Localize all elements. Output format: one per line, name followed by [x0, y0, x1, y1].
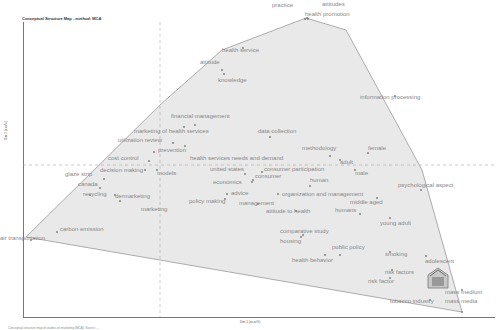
data-point [148, 160, 150, 162]
data-point [144, 169, 146, 171]
point-label: attitude [200, 59, 220, 65]
data-point [251, 181, 253, 183]
point-label: decision making [100, 167, 143, 173]
point-label: psychological aspect [398, 182, 454, 188]
data-point [153, 151, 155, 153]
point-label: management [239, 200, 274, 206]
point-label: data collection [258, 128, 296, 134]
data-point [223, 73, 225, 75]
data-point [252, 179, 254, 181]
data-point [99, 187, 101, 189]
point-label: health service [222, 47, 260, 53]
data-point [56, 231, 58, 233]
point-label: utilization review [118, 137, 163, 143]
data-point [389, 217, 391, 219]
point-label: risk factors [385, 269, 414, 275]
point-label: housing [280, 238, 301, 244]
data-point [302, 234, 304, 236]
point-label: glaze strip [65, 171, 93, 177]
data-point [119, 200, 121, 202]
point-label: air transportation [0, 235, 45, 241]
point-label: consumer [255, 173, 281, 179]
point-label: financial management [171, 113, 230, 119]
point-label: male [355, 170, 369, 176]
point-label: human [310, 177, 328, 183]
data-point [221, 69, 223, 71]
point-label: health services needs and demand [190, 155, 283, 161]
data-point [103, 178, 105, 180]
point-label: mass medium [445, 289, 482, 295]
point-label: consumer participation [264, 166, 324, 172]
point-label: female [368, 145, 387, 151]
point-label: adult [340, 159, 353, 165]
point-label: practice [272, 2, 294, 8]
data-point [420, 189, 422, 191]
point-label: adolescent [425, 258, 454, 264]
point-label: marketing of health services [134, 128, 209, 134]
data-point [226, 193, 228, 195]
point-label: tobacco industry [390, 298, 434, 304]
point-label: policy making [189, 198, 225, 204]
point-label: middle aged [350, 199, 383, 205]
point-label: information processing [360, 94, 420, 100]
point-label: comparative study [280, 228, 329, 234]
point-label: risk factor [368, 278, 394, 284]
point-label: advice [231, 190, 249, 196]
point-label: organization and management [282, 191, 363, 197]
point-label: smoking [385, 251, 407, 257]
data-point [184, 145, 186, 147]
point-label: carbon emission [60, 226, 104, 232]
point-label: models [157, 170, 176, 176]
point-label: economics [213, 179, 242, 185]
point-label: health behavior [292, 257, 333, 263]
point-label: attitudes [322, 1, 345, 7]
data-point [269, 136, 271, 138]
data-point [244, 173, 246, 175]
data-point [277, 193, 279, 195]
data-point [307, 18, 309, 20]
point-label: cost control [108, 155, 139, 161]
point-label: marketing [141, 206, 167, 212]
data-point [194, 124, 196, 126]
point-label: knowledge [218, 77, 247, 83]
data-point [367, 152, 369, 154]
point-label: young adult [380, 220, 411, 226]
data-point [304, 18, 306, 20]
point-label: health promotion [305, 11, 350, 17]
point-label: mass media [445, 298, 478, 304]
point-label: public policy [332, 244, 365, 250]
point-label: methodology [302, 145, 336, 151]
point-label: attitude to health [266, 208, 310, 214]
data-point [359, 213, 361, 215]
data-point [339, 254, 341, 256]
plot-area: practiceattitudeshealth promotionhealth … [0, 0, 500, 330]
point-label: united states [210, 166, 244, 172]
point-label: humans [335, 207, 356, 213]
data-point [324, 254, 326, 256]
point-label: canada [78, 181, 98, 187]
point-label: recycling [83, 191, 107, 197]
point-label: dermarketing [115, 193, 150, 199]
data-point [461, 311, 463, 313]
data-point [425, 255, 427, 257]
point-label: prevention [158, 147, 186, 153]
data-point [329, 155, 331, 157]
data-point [172, 142, 174, 144]
data-point [309, 185, 311, 187]
